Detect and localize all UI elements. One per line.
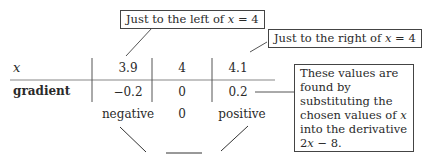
sketch-falling bbox=[120, 127, 146, 152]
callout-text: Just to the left of bbox=[126, 12, 228, 26]
gradient-value: 0 bbox=[152, 85, 212, 99]
leader-left bbox=[126, 28, 152, 56]
row-label-x: x bbox=[13, 60, 20, 75]
sign-label: negative bbox=[98, 107, 158, 121]
sketch-rising bbox=[221, 126, 248, 151]
leader-right bbox=[250, 42, 267, 52]
callout-text: = 4 bbox=[391, 31, 415, 45]
x-value: 4.1 bbox=[208, 61, 268, 75]
sign-label: positive bbox=[212, 107, 272, 121]
callout-right-of-4: Just to the right of x = 4 bbox=[268, 29, 422, 48]
callout-text: = 4 bbox=[234, 12, 258, 26]
note-text: − 8. bbox=[314, 136, 342, 150]
x-value: 4 bbox=[152, 61, 212, 75]
gradient-value: 0.2 bbox=[208, 85, 268, 99]
note-var: x bbox=[400, 108, 407, 122]
callout-left-of-4: Just to the left of x = 4 bbox=[120, 10, 265, 29]
sign-label: 0 bbox=[152, 107, 212, 121]
gradient-value: −0.2 bbox=[98, 85, 158, 99]
x-value: 3.9 bbox=[98, 61, 158, 75]
row-label-gradient: gradient bbox=[13, 84, 70, 98]
callout-derivative-note: These values are found by substituting t… bbox=[294, 64, 414, 152]
note-text: These values are found by substituting t… bbox=[300, 66, 400, 122]
callout-text: Just to the right of bbox=[274, 31, 385, 45]
